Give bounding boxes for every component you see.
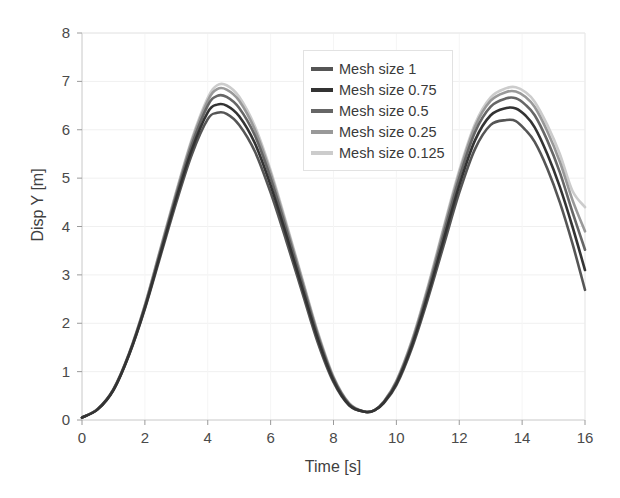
legend-item[interactable]: Mesh size 0.75 (311, 79, 444, 100)
legend-item[interactable]: Mesh size 0.125 (311, 142, 444, 163)
x-tick-label: 4 (188, 429, 228, 446)
x-axis-label: Time [s] (233, 458, 433, 476)
legend-label: Mesh size 0.75 (339, 82, 437, 98)
legend-line-swatch (311, 109, 333, 113)
y-tick-label: 6 (40, 121, 70, 138)
x-tick-label: 2 (125, 429, 165, 446)
legend-line-swatch (311, 88, 333, 92)
x-tick-label: 10 (376, 429, 416, 446)
x-tick-label: 14 (502, 429, 542, 446)
x-tick-label: 6 (251, 429, 291, 446)
y-tick-label: 2 (40, 314, 70, 331)
legend-line-swatch (311, 67, 333, 71)
legend-line-swatch (311, 151, 333, 155)
y-axis-label: Disp Y [m] (29, 145, 47, 265)
x-tick-label: 0 (62, 429, 102, 446)
legend-line-swatch (311, 130, 333, 134)
legend-label: Mesh size 0.125 (339, 145, 445, 161)
y-tick-label: 0 (40, 411, 70, 428)
y-tick-label: 8 (40, 24, 70, 41)
x-tick-label: 16 (565, 429, 605, 446)
legend-label: Mesh size 1 (339, 61, 416, 77)
x-tick-label: 12 (439, 429, 479, 446)
legend: Mesh size 1Mesh size 0.75Mesh size 0.5Me… (303, 50, 453, 171)
legend-label: Mesh size 0.5 (339, 103, 428, 119)
legend-item[interactable]: Mesh size 0.5 (311, 100, 444, 121)
y-tick-label: 1 (40, 363, 70, 380)
chart-figure: 012345678 0246810121416 Disp Y [m] Time … (0, 0, 620, 498)
legend-label: Mesh size 0.25 (339, 124, 437, 140)
legend-item[interactable]: Mesh size 0.25 (311, 121, 444, 142)
x-tick-label: 8 (314, 429, 354, 446)
y-tick-label: 7 (40, 72, 70, 89)
y-tick-label: 3 (40, 266, 70, 283)
legend-item[interactable]: Mesh size 1 (311, 58, 444, 79)
